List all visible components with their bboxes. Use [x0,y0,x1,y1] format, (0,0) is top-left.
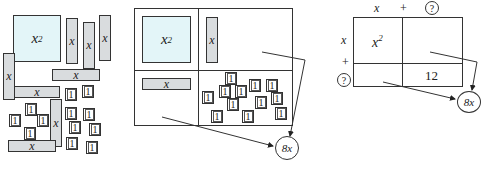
arrow-line [262,52,305,60]
arrow [162,117,273,146]
arrow [383,82,455,99]
arrow [472,62,477,90]
arrow [290,60,305,136]
arrows-layer [0,0,485,169]
